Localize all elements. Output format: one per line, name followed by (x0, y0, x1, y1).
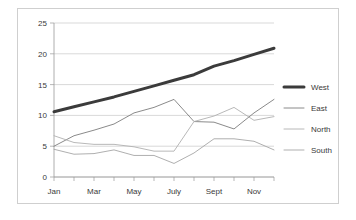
x-tick-label: Jan (48, 187, 61, 196)
x-tick-label: May (126, 187, 141, 196)
x-tick-label: July (167, 187, 181, 196)
y-tick-label: 10 (38, 111, 47, 120)
axes (50, 23, 274, 181)
series-line-north (54, 107, 274, 151)
y-tick-label: 0 (43, 173, 48, 182)
x-axis-tick-labels: JanMarMayJulySeptNov (48, 187, 262, 196)
legend-label-west: West (311, 83, 330, 92)
legend-label-north: North (311, 125, 331, 134)
series-line-west (54, 48, 274, 111)
x-tick-label: Nov (247, 187, 261, 196)
series-line-east (54, 99, 274, 146)
legend-label-east: East (311, 104, 328, 113)
y-tick-label: 5 (43, 142, 48, 151)
y-axis-tick-labels: 0510152025 (38, 19, 47, 182)
chart-legend: WestEastNorthSouth (284, 83, 332, 155)
y-tick-label: 25 (38, 19, 47, 28)
chart-frame: 0510152025 JanMarMayJulySeptNov WestEast… (17, 8, 339, 204)
x-tick-label: Mar (87, 187, 101, 196)
y-tick-label: 15 (38, 81, 47, 90)
x-tick-label: Sept (206, 187, 223, 196)
y-tick-label: 20 (38, 50, 47, 59)
legend-label-south: South (311, 146, 332, 155)
line-chart: 0510152025 JanMarMayJulySeptNov WestEast… (18, 9, 340, 205)
